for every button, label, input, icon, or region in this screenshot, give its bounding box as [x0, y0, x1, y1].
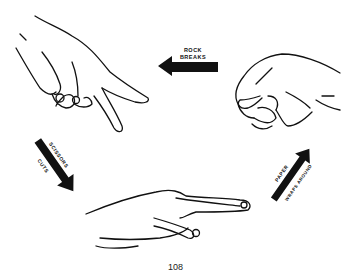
arrow-rock-breaks: ROCK BREAKS	[158, 47, 218, 76]
arrow-scissors-cuts: SCISSORS CUTS	[27, 134, 83, 199]
scissors-hand-illustration	[16, 16, 148, 132]
paper-hand-illustration	[86, 190, 250, 248]
rps-diagram: ROCK BREAKS SCISSORS CUTS PAPER WRAPS AR…	[0, 0, 351, 271]
rock-hand-illustration	[236, 54, 340, 129]
rock-label: ROCK	[184, 47, 202, 53]
page-number: 108	[0, 262, 351, 271]
breaks-label: BREAKS	[180, 54, 206, 60]
arrow-paper-wraps-around: PAPER WRAPS AROUND	[264, 142, 320, 207]
